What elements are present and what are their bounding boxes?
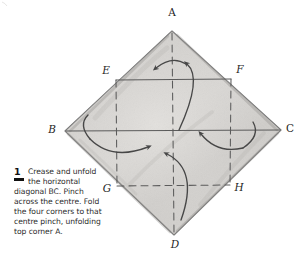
label-D: D	[170, 238, 180, 250]
label-A: A	[167, 6, 176, 18]
step-number: 1	[14, 167, 25, 177]
label-E: E	[101, 64, 110, 76]
label-F: F	[235, 63, 244, 75]
step-rule	[14, 178, 24, 181]
label-B: B	[47, 123, 56, 135]
label-H: H	[233, 181, 244, 193]
step-badge: 1	[14, 167, 25, 181]
step-caption-text: Crease and unfold the horizontal diagona…	[14, 167, 106, 237]
step-caption: 1 Crease and unfold the horizontal diago…	[14, 167, 106, 237]
label-C: C	[286, 122, 294, 134]
page-speckle	[2, 2, 7, 6]
